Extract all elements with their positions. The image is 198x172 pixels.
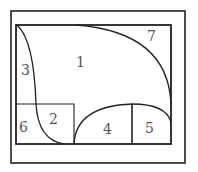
region-diagram: 1 2 3 4 5 6 7 — [0, 0, 198, 172]
label-region-2: 2 — [49, 111, 58, 127]
label-region-5: 5 — [145, 120, 154, 136]
label-region-1: 1 — [76, 54, 85, 70]
label-region-7: 7 — [147, 28, 156, 44]
arc-region-7 — [76, 25, 171, 104]
label-region-4: 4 — [103, 121, 112, 137]
label-region-3: 3 — [21, 62, 30, 78]
outer-frame — [11, 11, 185, 163]
label-region-6: 6 — [19, 119, 28, 135]
